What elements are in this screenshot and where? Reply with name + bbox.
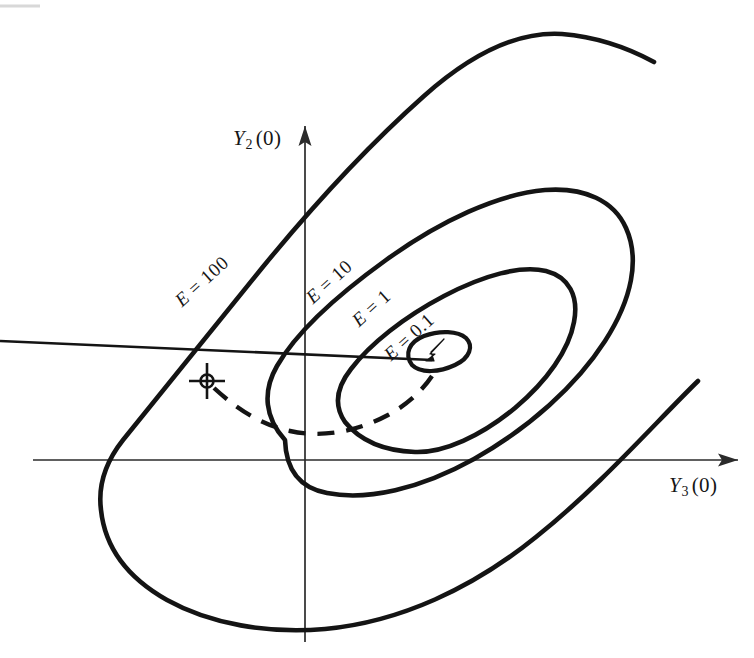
axes-group xyxy=(33,126,738,642)
figure-canvas xyxy=(0,0,754,658)
y-axis-label: Y2(0) xyxy=(233,126,281,153)
y-axis-label-var: Y xyxy=(233,126,245,150)
y-axis-label-sub: 2 xyxy=(245,137,253,152)
x-axis-label-sub: 3 xyxy=(681,484,689,499)
contour-figure: Y2(0) Y3(0) E = 100 E = 10 E = 1 E = 0.1 xyxy=(0,0,754,658)
contour-path-e10 xyxy=(268,190,633,496)
convergence-arrowhead xyxy=(426,339,444,361)
x-axis-label: Y3(0) xyxy=(669,473,717,500)
x-axis-label-arg: (0) xyxy=(689,473,717,497)
contour-e10 xyxy=(268,190,633,496)
search-trajectory-group xyxy=(214,366,438,434)
y-axis-label-arg: (0) xyxy=(253,126,281,150)
search-trajectory-path xyxy=(214,366,438,434)
x-axis-label-var: Y xyxy=(669,473,681,497)
